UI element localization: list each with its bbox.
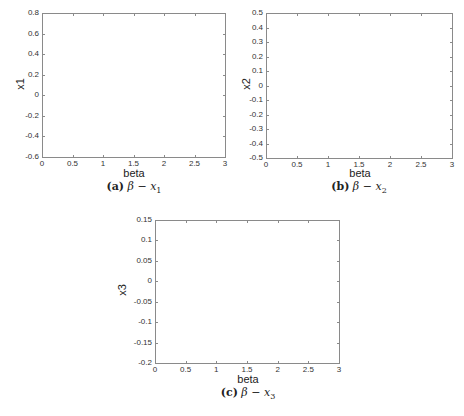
x-tick-label: 2 (268, 365, 288, 374)
chart-c: 0.150.10.050-0.05-0.1-0.15-0.2 00.511.52… (0, 0, 464, 416)
x-tick-mark (247, 361, 248, 363)
y-tick-label: 0.05 (122, 256, 152, 265)
caption-c: (c) β − x3 (198, 386, 298, 401)
y-tick-mark (156, 220, 158, 221)
caption-expr-c: β − x (241, 386, 270, 399)
x-tick-mark (339, 361, 340, 363)
y-tick-label: -0.15 (122, 338, 152, 347)
x-tick-mark (339, 221, 340, 223)
y-tick-mark (337, 261, 339, 262)
plot-area-c (155, 220, 340, 364)
y-tick-mark (337, 302, 339, 303)
y-tick-mark (156, 343, 158, 344)
x-tick-label: 0.5 (176, 365, 196, 374)
x-tick-mark (186, 221, 187, 223)
x-tick-mark (186, 361, 187, 363)
y-tick-mark (156, 261, 158, 262)
x-tick-mark (308, 221, 309, 223)
y-tick-mark (337, 322, 339, 323)
x-tick-mark (216, 221, 217, 223)
x-tick-mark (155, 221, 156, 223)
y-tick-mark (156, 240, 158, 241)
y-tick-mark (337, 343, 339, 344)
x-tick-mark (308, 361, 309, 363)
y-tick-mark (337, 363, 339, 364)
x-tick-label: 3 (329, 365, 349, 374)
y-tick-mark (156, 363, 158, 364)
x-tick-mark (278, 361, 279, 363)
caption-sub-c: 3 (270, 392, 275, 401)
y-tick-mark (156, 322, 158, 323)
x-tick-mark (155, 361, 156, 363)
y-tick-mark (337, 240, 339, 241)
caption-label-c: (c) (221, 386, 238, 399)
y-tick-label: 0.15 (122, 215, 152, 224)
x-tick-mark (247, 221, 248, 223)
x-tick-mark (278, 221, 279, 223)
x-tick-label: 1 (206, 365, 226, 374)
y-axis-label-c: x3 (116, 280, 128, 300)
y-tick-mark (156, 302, 158, 303)
y-tick-mark (156, 281, 158, 282)
x-axis-label-c: beta (228, 373, 268, 385)
y-tick-label: -0.1 (122, 317, 152, 326)
y-tick-mark (337, 281, 339, 282)
y-tick-label: 0.1 (122, 235, 152, 244)
x-tick-label: 0 (145, 365, 165, 374)
x-tick-label: 2.5 (298, 365, 318, 374)
x-tick-mark (216, 361, 217, 363)
